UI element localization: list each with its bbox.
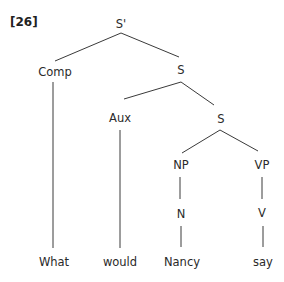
node-root: S' (116, 17, 126, 31)
edge-root-comp (55, 33, 121, 61)
edge-s1-aux (124, 82, 181, 99)
node-aux: Aux (109, 111, 131, 125)
edge-s2-np (182, 130, 220, 153)
node-v: V (258, 206, 266, 220)
node-n: N (177, 207, 186, 221)
edge-s1-s2 (181, 82, 214, 105)
node-s2: S (217, 112, 224, 126)
node-vp: VP (255, 158, 270, 172)
tree-branches (0, 0, 284, 282)
node-comp: Comp (38, 65, 72, 79)
node-np: NP (173, 158, 189, 172)
edge-s2-vp (220, 130, 258, 151)
node-s1: S (177, 63, 184, 77)
word-what: What (39, 255, 69, 269)
example-number: [26] (10, 15, 38, 29)
edge-root-s1 (121, 33, 179, 57)
word-nancy: Nancy (164, 255, 200, 269)
word-say: say (253, 255, 273, 269)
syntax-tree-diagram: [26] S' Comp S Aux S NP VP N V What woul… (0, 0, 284, 282)
word-would: would (103, 255, 137, 269)
